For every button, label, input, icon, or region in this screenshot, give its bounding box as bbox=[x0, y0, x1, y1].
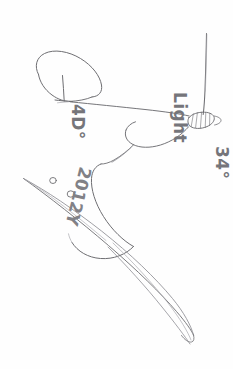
annotation-light: Light bbox=[170, 92, 190, 143]
annotation-angle-left: 4D° bbox=[68, 104, 88, 140]
sketch-canvas: 4D° Light 34° 2012Y bbox=[0, 0, 233, 369]
handwritten-annotations: 4D° Light 34° 2012Y bbox=[0, 0, 233, 369]
annotation-angle-right: 34° bbox=[212, 146, 232, 179]
annotation-code: 2012Y bbox=[62, 165, 96, 228]
